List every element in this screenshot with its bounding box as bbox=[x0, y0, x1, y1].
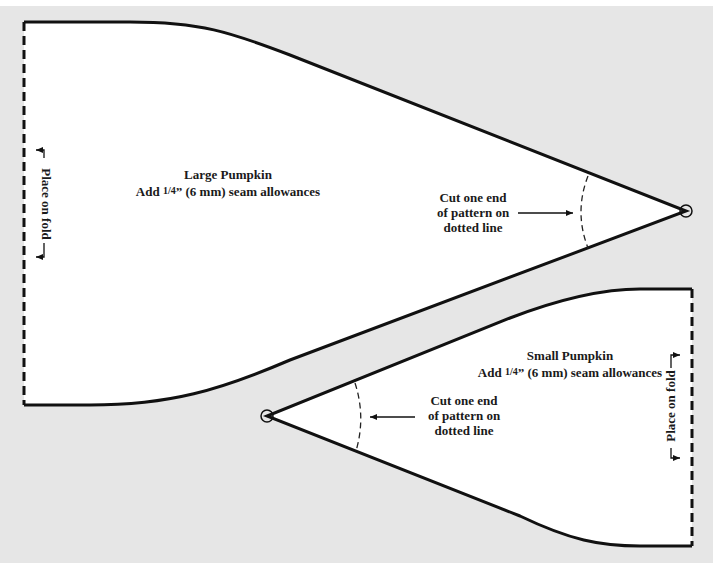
large-piece-label: Large Pumpkin Add 1/4” (6 mm) seam allow… bbox=[118, 167, 338, 200]
small-piece-fold-label: Place on fold bbox=[663, 366, 679, 446]
large-piece-seam-allowance: Add 1/4” (6 mm) seam allowances bbox=[118, 183, 338, 200]
large-piece-cut-note: Cut one end of pattern on dotted line bbox=[428, 190, 518, 235]
small-piece-title: Small Pumpkin bbox=[460, 348, 680, 364]
pattern-drawing bbox=[0, 0, 713, 563]
large-piece-fold-label: Place on fold bbox=[38, 164, 54, 244]
small-piece-cut-note: Cut one end of pattern on dotted line bbox=[418, 393, 510, 438]
large-piece-title: Large Pumpkin bbox=[118, 167, 338, 183]
small-piece-seam-allowance: Add 1/4” (6 mm) seam allowances bbox=[460, 364, 680, 381]
small-piece-label: Small Pumpkin Add 1/4” (6 mm) seam allow… bbox=[460, 348, 680, 381]
